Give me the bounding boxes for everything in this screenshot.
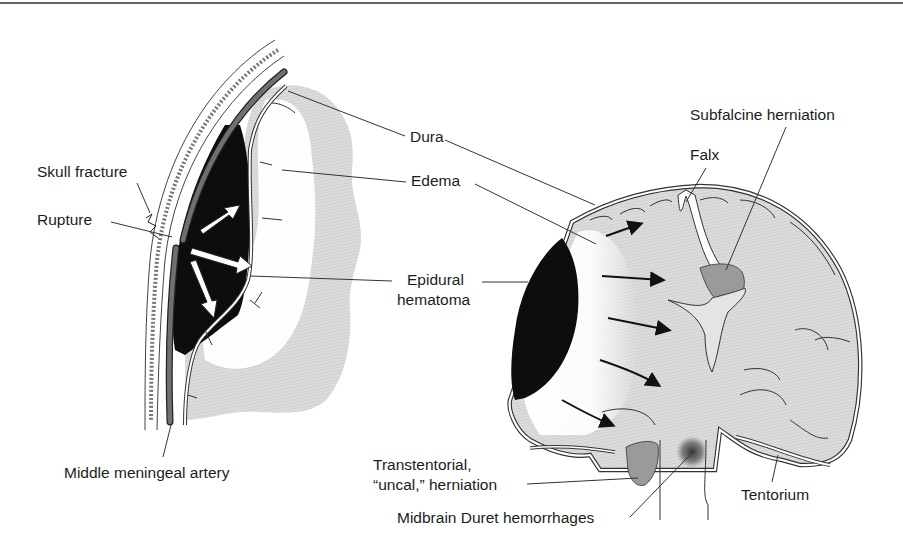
label-skull-fracture: Skull fracture bbox=[37, 163, 127, 180]
skull-fracture-mark bbox=[146, 214, 158, 238]
label-falx: Falx bbox=[690, 146, 720, 163]
leader-dura-right bbox=[445, 140, 595, 205]
diagram-canvas: Skull fracture Rupture Middle meningeal … bbox=[0, 0, 903, 556]
leader-edema-right bbox=[475, 184, 596, 244]
label-transtentorial-line2: “uncal,” herniation bbox=[373, 476, 497, 493]
label-transtentorial-line1: Transtentorial, bbox=[373, 456, 472, 473]
label-epidural-line1: Epidural bbox=[407, 271, 464, 288]
leader-skull-fracture bbox=[137, 183, 150, 213]
label-middle-meningeal-artery: Middle meningeal artery bbox=[64, 464, 230, 481]
label-tentorium: Tentorium bbox=[741, 486, 809, 503]
right-panel-brain bbox=[510, 186, 861, 520]
left-panel-closeup bbox=[145, 40, 361, 430]
label-dura: Dura bbox=[410, 128, 444, 145]
label-duret: Midbrain Duret hemorrhages bbox=[397, 509, 595, 526]
leader-transtentorial bbox=[527, 478, 638, 484]
label-rupture: Rupture bbox=[37, 211, 92, 228]
duret-hemorrhage bbox=[676, 436, 708, 468]
leader-middle-meningeal-artery bbox=[163, 425, 171, 457]
uncal-herniation bbox=[626, 441, 658, 485]
label-epidural-line2: hematoma bbox=[397, 291, 471, 308]
epidural-hematoma-diagram: Skull fracture Rupture Middle meningeal … bbox=[0, 0, 903, 556]
label-edema: Edema bbox=[411, 172, 460, 189]
label-subfalcine-herniation: Subfalcine herniation bbox=[690, 106, 835, 123]
